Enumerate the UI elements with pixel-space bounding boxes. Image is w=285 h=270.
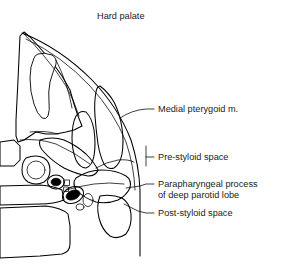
label-parapharyngeal-process-line2: of deep parotid lobe bbox=[158, 190, 239, 200]
label-post-styloid-space: Post-styloid space bbox=[158, 208, 233, 218]
label-parapharyngeal-process-line1: Parapharyngeal process bbox=[158, 179, 258, 189]
anatomical-figure: Hard palate Medial pterygoid m. Pre-styl… bbox=[0, 0, 285, 270]
label-hard-palate: Hard palate bbox=[97, 11, 145, 21]
label-medial-pterygoid: Medial pterygoid m. bbox=[158, 104, 238, 114]
label-pre-styloid-space: Pre-styloid space bbox=[158, 152, 228, 162]
parapharyngeal-space-diagram: Hard palate Medial pterygoid m. Pre-styl… bbox=[0, 0, 285, 270]
figure-background bbox=[0, 0, 285, 270]
